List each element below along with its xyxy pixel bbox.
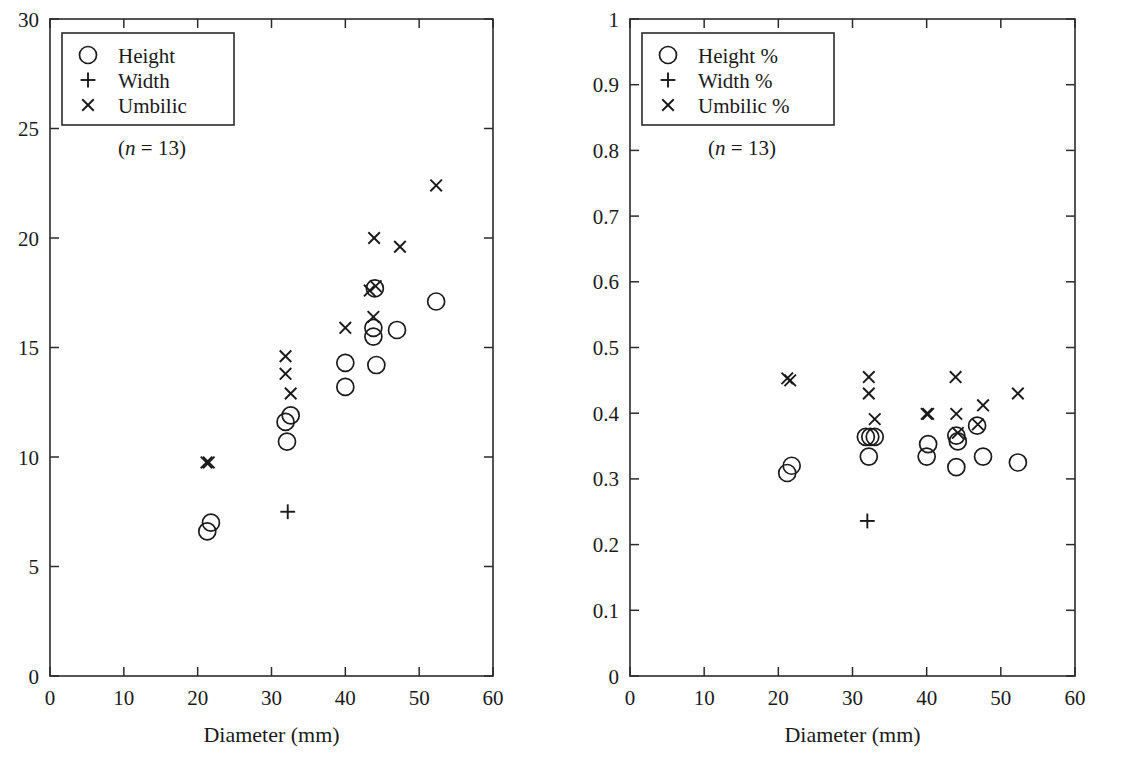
x-axis-tick-label: 50 — [990, 686, 1011, 710]
x-axis-title: Diameter (mm) — [203, 722, 339, 747]
x-axis-tick-label: 50 — [409, 686, 430, 710]
sample-size-value: 13 — [158, 136, 179, 160]
sample-size-value: 13 — [748, 136, 769, 160]
sample-size-annotation: (n = 13) — [708, 136, 776, 160]
series-height — [199, 280, 445, 540]
data-point-circle — [337, 378, 354, 395]
n-symbol: n — [715, 136, 726, 160]
x-axis-tick-label: 10 — [113, 686, 134, 710]
data-point-circle — [428, 293, 445, 310]
x-axis-tick-label: 60 — [1065, 686, 1086, 710]
equals-sign: = — [726, 136, 748, 160]
legend-label: Umbilic % — [698, 94, 790, 118]
x-axis-tick-label: 0 — [625, 686, 636, 710]
y-axis-tick-label: 0.6 — [593, 270, 619, 294]
data-point-circle — [389, 321, 406, 338]
equals-sign: = — [136, 136, 158, 160]
legend-label: Width — [118, 69, 170, 93]
series-width — [280, 504, 295, 519]
chart-panel-right: 00.10.20.30.40.50.60.70.80.9101020304050… — [570, 0, 1140, 758]
y-axis-tick-label: 30 — [18, 8, 39, 32]
y-axis-tick-label: 0 — [29, 665, 40, 689]
chart-panel-left: 0510152025300102030405060Diameter (mm)He… — [0, 0, 570, 758]
y-axis-tick-label: 0.5 — [593, 336, 619, 360]
x-axis-tick-label: 30 — [261, 686, 282, 710]
paren-open: ( — [118, 136, 125, 160]
y-axis-tick-label: 0 — [609, 665, 620, 689]
series-umbilic — [781, 371, 1023, 438]
scatter-plot-left: 0510152025300102030405060Diameter (mm)He… — [0, 0, 570, 758]
series-height — [779, 417, 1027, 481]
x-axis-tick-label: 40 — [916, 686, 937, 710]
x-axis-tick-label: 20 — [187, 686, 208, 710]
legend-label: Height % — [698, 44, 778, 68]
n-symbol: n — [125, 136, 136, 160]
legend-label: Height — [118, 44, 175, 68]
x-axis-tick-label: 10 — [694, 686, 715, 710]
legend-label: Umbilic — [118, 94, 187, 118]
paren-open: ( — [708, 136, 715, 160]
y-axis-tick-label: 0.3 — [593, 467, 619, 491]
data-point-circle — [366, 280, 383, 297]
y-axis-tick-label: 0.1 — [593, 599, 619, 623]
data-point-circle — [337, 354, 354, 371]
y-axis-tick-label: 0.8 — [593, 139, 619, 163]
sample-size-annotation: (n = 13) — [118, 136, 186, 160]
y-axis-tick-label: 0.7 — [593, 205, 619, 229]
paren-close: ) — [769, 136, 776, 160]
data-point-circle — [862, 428, 879, 445]
series-umbilic — [201, 180, 442, 469]
data-point-circle — [1009, 454, 1026, 471]
x-axis-tick-label: 20 — [768, 686, 789, 710]
data-point-circle — [975, 448, 992, 465]
x-axis-title: Diameter (mm) — [784, 722, 920, 747]
data-point-circle — [949, 433, 966, 450]
y-axis-tick-label: 1 — [609, 8, 620, 32]
y-axis-tick-label: 10 — [18, 446, 39, 470]
series-width — [860, 514, 875, 529]
y-axis-tick-label: 0.2 — [593, 533, 619, 557]
data-point-circle — [918, 448, 935, 465]
y-axis-tick-label: 25 — [18, 117, 39, 141]
paren-close: ) — [179, 136, 186, 160]
y-axis-tick-label: 0.9 — [593, 73, 619, 97]
x-axis-tick-label: 40 — [335, 686, 356, 710]
y-axis-tick-label: 0.4 — [593, 402, 620, 426]
data-point-circle — [279, 433, 296, 450]
x-axis-tick-label: 60 — [483, 686, 504, 710]
y-axis-tick-label: 5 — [29, 555, 40, 579]
data-point-circle — [860, 448, 877, 465]
x-axis-tick-label: 0 — [45, 686, 56, 710]
x-axis-tick-label: 30 — [842, 686, 863, 710]
data-point-circle — [948, 459, 965, 476]
data-point-circle — [368, 357, 385, 374]
scatter-plot-right: 00.10.20.30.40.50.60.70.80.9101020304050… — [570, 0, 1141, 758]
figure-container: 0510152025300102030405060Diameter (mm)He… — [0, 0, 1141, 758]
legend-label: Width % — [698, 69, 772, 93]
y-axis-tick-label: 20 — [18, 227, 39, 251]
y-axis-tick-label: 15 — [18, 336, 39, 360]
